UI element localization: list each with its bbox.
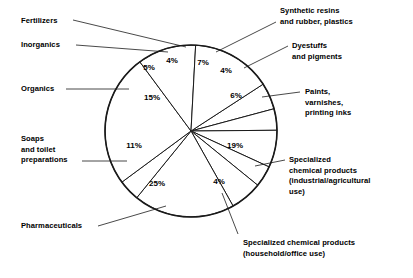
callout-label-paints: Paints, varnishes, printing inks <box>305 87 351 119</box>
leader-line-pharmaceuticals <box>98 206 166 226</box>
pie-slice-percent-label: 6% <box>230 91 242 100</box>
leader-line-inorganics <box>76 45 168 52</box>
pie-chart: 5%4%7%4%6%19%4%25%11%15% Fertilizers Ino… <box>0 0 413 278</box>
pie-slice-percent-label: 7% <box>197 58 209 67</box>
pie-slice-group <box>105 45 277 217</box>
callout-label-dyestuffs: Dyestuffs and pigments <box>292 41 342 62</box>
pie-slice-percent-label: 15% <box>144 93 160 102</box>
callout-label-inorganics: Inorganics <box>21 40 60 51</box>
callout-label-specialized-household: Specialized chemical products (household… <box>243 238 355 259</box>
pie-slice-percent-label: 25% <box>149 179 165 188</box>
callout-label-soaps: Soaps and toilet preparations <box>21 134 68 166</box>
callout-label-pharmaceuticals: Pharmaceuticals <box>21 221 82 232</box>
leader-line-synthetic-resins <box>216 22 276 52</box>
leader-line-fertilizers <box>73 20 186 47</box>
callout-label-organics: Organics <box>21 84 54 95</box>
callout-label-fertilizers: Fertilizers <box>21 16 57 27</box>
callout-label-synthetic-resins: Synthetic resins and rubber, plastics <box>280 6 353 27</box>
pie-slice-percent-label: 4% <box>166 56 178 65</box>
leader-line-dyestuffs <box>244 46 288 68</box>
callout-label-specialized-industrial: Specialized chemical products (industria… <box>289 155 370 197</box>
pie-slice-percent-label: 5% <box>143 63 155 72</box>
pie-slice-percent-label: 11% <box>126 141 142 150</box>
pie-slice-percent-label: 19% <box>227 141 243 150</box>
pie-slice-percent-label: 4% <box>220 66 232 75</box>
pie-slice-percent-label: 4% <box>213 177 225 186</box>
